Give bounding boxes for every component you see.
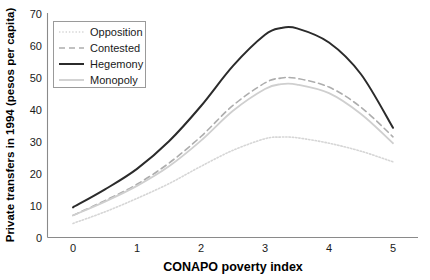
line-chart: 0 10 20 30 40 50 60 70 0 1 2 3 4 5 CONAP… [0, 0, 430, 280]
y-tick-label: 70 [30, 8, 42, 20]
x-tick-label: 4 [326, 242, 332, 254]
x-tick-label: 2 [198, 242, 204, 254]
y-tick-label: 30 [30, 136, 42, 148]
y-tick-label: 50 [30, 72, 42, 84]
legend: Opposition Contested Hegemony Monopoly [54, 22, 146, 88]
legend-label-hegemony: Hegemony [90, 58, 144, 70]
y-tick-label: 40 [30, 104, 42, 116]
y-axis-title: Private transfers in 1994 (pesos per cap… [4, 8, 16, 243]
y-tick-label: 0 [36, 232, 42, 244]
y-tick-label: 10 [30, 200, 42, 212]
x-tick-label: 1 [134, 242, 140, 254]
x-tick-label: 3 [262, 242, 268, 254]
y-tick-labels: 0 10 20 30 40 50 60 70 [30, 8, 42, 244]
legend-label-monopoly: Monopoly [90, 74, 138, 86]
y-tick-label: 20 [30, 168, 42, 180]
legend-label-opposition: Opposition [90, 26, 143, 38]
legend-label-contested: Contested [90, 42, 140, 54]
x-axis-title: CONAPO poverty index [163, 260, 303, 274]
chart-figure: 0 10 20 30 40 50 60 70 0 1 2 3 4 5 CONAP… [0, 0, 430, 280]
y-tick-label: 60 [30, 40, 42, 52]
x-tick-label: 5 [390, 242, 396, 254]
x-tick-label: 0 [70, 242, 76, 254]
x-tick-labels: 0 1 2 3 4 5 [70, 242, 396, 254]
